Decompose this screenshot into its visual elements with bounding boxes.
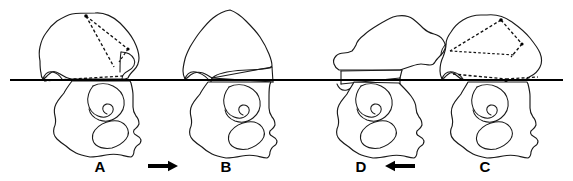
- panel-d-label: D: [356, 158, 367, 175]
- panel-d: D: [334, 16, 446, 175]
- panel-c-lower-body-outline: [451, 82, 538, 158]
- arrow-a-to-b: [148, 161, 178, 171]
- arrow-c-to-d: [385, 161, 415, 171]
- panel-d-upper-fragment-outline: [334, 16, 446, 70]
- right-arrow-icon: [148, 161, 178, 171]
- panel-d-wedge-right-edge: [400, 70, 402, 78]
- panel-b-upper-fragment-outline: [183, 10, 272, 79]
- panel-a-label: A: [95, 158, 106, 175]
- anatomical-figure: A B: [0, 0, 573, 181]
- panel-b-label: B: [221, 158, 232, 175]
- left-arrow-icon: [385, 161, 415, 171]
- panel-a: A: [39, 13, 141, 175]
- panel-a-vertex-right-dot: [126, 47, 129, 50]
- panel-c-vertex-right-dot: [520, 42, 523, 45]
- panel-c-vertex-crest-dot: [499, 18, 503, 22]
- panel-c-label: C: [480, 158, 491, 175]
- panel-c: C: [440, 15, 542, 175]
- figure-canvas: A B: [0, 0, 573, 181]
- panel-a-vertex-crest-dot: [84, 14, 88, 18]
- panel-b: B: [183, 10, 277, 175]
